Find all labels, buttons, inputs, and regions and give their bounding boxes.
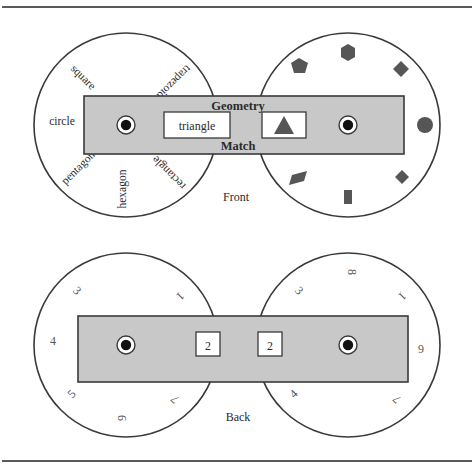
circle-icon	[417, 117, 433, 133]
hub-right[interactable]	[339, 336, 357, 354]
hub-dot	[121, 340, 131, 350]
wheel-number: 6	[418, 342, 424, 356]
hub-right[interactable]	[339, 116, 357, 134]
back-view-label: Back	[226, 410, 251, 424]
wheel-number: 9	[115, 415, 129, 421]
front-band[interactable]: Geometry Match triangle	[84, 96, 404, 154]
back-left-window[interactable]: 2	[196, 332, 220, 356]
figure-canvas: hexagon pentagon circle square trapezoid…	[0, 0, 474, 471]
word-window-text: triangle	[179, 119, 216, 133]
back-view: 9 5 4 3 1 8 7 4 5 3 8 1 6 7	[34, 253, 440, 437]
wheel-number: 8	[345, 269, 359, 275]
window-value: 2	[267, 339, 273, 353]
hub-dot	[343, 340, 353, 350]
hub-left[interactable]	[117, 336, 135, 354]
shape-window[interactable]	[262, 112, 306, 138]
wheel-label-hexagon: hexagon	[116, 169, 129, 208]
band-title-bottom: Match	[221, 139, 256, 153]
hub-left[interactable]	[117, 116, 135, 134]
back-right-window[interactable]: 2	[258, 332, 282, 356]
word-window[interactable]: triangle	[164, 112, 230, 138]
band-title-top: Geometry	[211, 99, 265, 113]
geometry-match-figure: hexagon pentagon circle square trapezoid…	[0, 0, 474, 471]
hub-dot	[343, 120, 353, 130]
wheel-label-circle: circle	[49, 115, 75, 127]
hub-dot	[121, 120, 131, 130]
front-view: hexagon pentagon circle square trapezoid…	[34, 33, 440, 217]
back-band[interactable]: 2 2	[78, 316, 408, 382]
rectangle-icon	[344, 190, 352, 204]
window-value: 2	[205, 339, 211, 353]
wheel-number: 4	[50, 334, 56, 348]
front-view-label: Front	[223, 190, 250, 204]
